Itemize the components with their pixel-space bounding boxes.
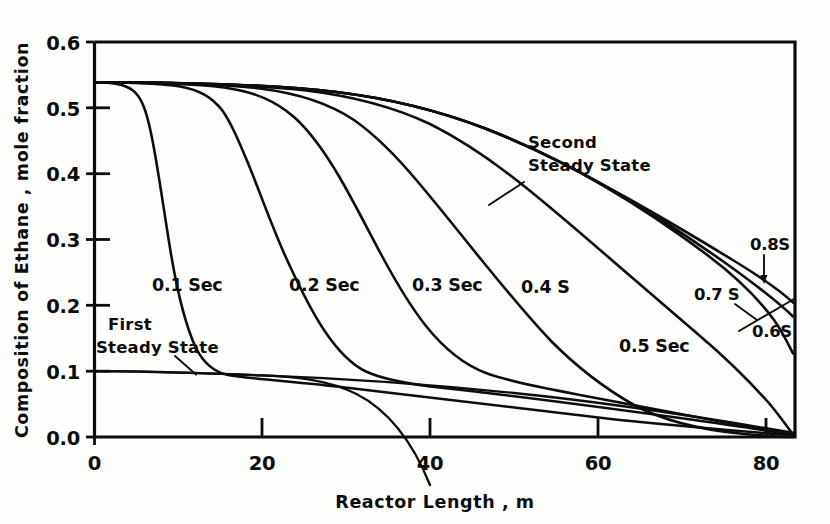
chart-svg: 0.6 0.5 0.4 0.3 0.2 0.1 0.0 0 20 40 60 8… [0,0,830,524]
label-0-2-sec: 0.2 Sec [289,275,360,295]
y-tick-label-0-4: 0.4 [46,163,80,186]
chart-figure: 0.6 0.5 0.4 0.3 0.2 0.1 0.0 0 20 40 60 8… [0,0,830,524]
label-0-8-s: 0.8S [750,235,790,254]
x-tick-label-80: 80 [753,452,780,475]
x-axis-title: Reactor Length , m [335,492,534,512]
x-tick-label-60: 60 [585,452,612,475]
y-tick-label-0-2: 0.2 [46,295,80,318]
x-tick-label-0: 0 [88,452,101,475]
second-steady-state-line2: Steady State [528,156,651,175]
y-tick-label-0-5: 0.5 [46,98,80,121]
leader-0-6-s [735,304,757,320]
curve-0-1-sec [95,82,794,435]
curve-0-2-sec [95,82,794,435]
y-tick-labels: 0.6 0.5 0.4 0.3 0.2 0.1 0.0 [46,32,80,450]
x-axis-ticks [95,418,767,445]
y-tick-label-0-1: 0.1 [46,361,80,384]
curve-0-8-s [95,82,794,302]
y-axis-ticks [86,42,110,437]
y-tick-label-0-0: 0.0 [46,427,80,450]
x-tick-label-20: 20 [249,452,276,475]
y-axis-title: Composition of Ethane , mole fraction [12,42,32,438]
curve-0-3-sec [95,82,794,435]
y-tick-label-0-3: 0.3 [46,229,80,252]
first-steady-state-line1: First [108,315,152,334]
curve-labels: 0.1 Sec 0.2 Sec 0.3 Sec 0.4 S 0.5 Sec 0.… [152,235,792,356]
first-steady-state-line2: Steady State [96,338,219,357]
curve-0-5-sec [95,82,794,434]
annotation-second-steady-state: Second Steady State [489,133,651,205]
label-0-3-sec: 0.3 Sec [412,275,483,295]
label-0-6-s: 0.6S [752,322,792,341]
label-0-5-sec: 0.5 Sec [619,336,690,356]
curve-0-4-s [95,82,794,437]
curve-0-6-s [95,82,794,353]
y-tick-label-0-6: 0.6 [46,32,80,55]
label-0-4-s: 0.4 S [521,277,570,297]
label-0-1-sec: 0.1 Sec [152,275,223,295]
second-steady-state-line1: Second [528,133,597,152]
annotation-first-steady-state: First Steady State [96,315,219,375]
x-tick-labels: 0 20 40 60 80 [88,452,779,475]
label-0-7-s: 0.7 S [694,285,739,304]
curve-first-steady-state-main [95,371,796,433]
leader-second-steady-state [489,182,524,205]
